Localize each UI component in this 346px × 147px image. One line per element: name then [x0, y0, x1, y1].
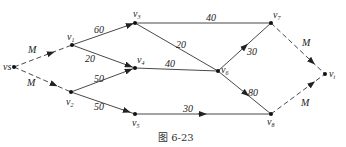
weight-v6-v7: 30	[246, 46, 257, 57]
figure-caption: 图 6-23	[158, 132, 194, 143]
arrow-icon	[52, 84, 54, 85]
edge-vs-v2	[14, 67, 71, 92]
node-vs	[12, 65, 16, 69]
weight-v8-vt: M	[300, 97, 310, 108]
weight-vs-v1: M	[27, 44, 37, 55]
weight-v7-vt: M	[301, 37, 311, 48]
node-v4	[133, 66, 137, 70]
arrow-icon	[126, 65, 129, 66]
arrow-icon	[49, 53, 51, 54]
label-v5: v5	[132, 117, 139, 129]
arrow-icon	[126, 70, 129, 71]
label-vt: vt	[329, 68, 335, 80]
label-v4: v4	[137, 54, 144, 66]
weight-v1-v3: 60	[94, 24, 104, 35]
node-v6	[216, 69, 220, 73]
edge-v1-v4	[72, 45, 135, 68]
arrow-icon	[243, 91, 246, 93]
node-v3	[133, 21, 137, 25]
label-vs: vs	[3, 61, 11, 72]
weight-v2-v5: 50	[94, 101, 104, 112]
edge-v7-vt	[271, 23, 325, 74]
weight-v4-v6: 40	[165, 58, 175, 69]
arrow-icon	[124, 110, 127, 111]
label-v8: v8	[267, 116, 274, 128]
node-v2	[69, 90, 73, 94]
node-vt	[323, 72, 327, 76]
edge-v4-v6	[135, 68, 218, 71]
arrow-icon	[242, 47, 245, 50]
node-v5	[133, 112, 137, 116]
network-diagram: M M 60 20 50 50 40 20 40 30 80 30 M M vs…	[0, 0, 346, 147]
weight-v2-v4: 50	[94, 73, 104, 84]
edge-vs-v1	[14, 45, 72, 67]
weight-v3-v6: 20	[176, 39, 186, 50]
weight-v3-v7: 40	[206, 12, 216, 23]
weight-v6-v8: 80	[248, 87, 258, 98]
node-v7	[269, 21, 273, 25]
weight-vs-v2: M	[26, 77, 36, 88]
label-v6: v6	[221, 64, 228, 76]
edge-v8-vt	[271, 74, 325, 114]
arrow-icon	[309, 84, 312, 86]
arrow-icon	[127, 25, 130, 26]
label-v3: v3	[133, 8, 140, 20]
label-v7: v7	[273, 9, 281, 21]
label-v2: v2	[66, 96, 73, 108]
label-v1: v1	[67, 31, 74, 43]
node-v1	[70, 43, 74, 47]
arrow-icon	[309, 59, 312, 62]
weight-v5-v8: 30	[182, 103, 193, 114]
weight-v1-v4: 20	[85, 53, 95, 64]
